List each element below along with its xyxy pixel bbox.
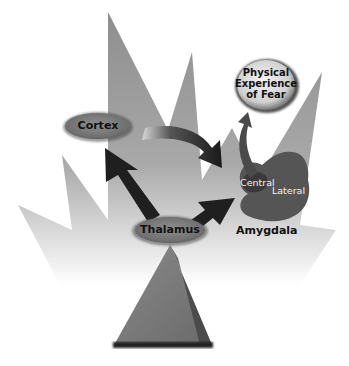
diagram-canvas (0, 0, 349, 366)
amygdala-central-label: Central (240, 177, 275, 188)
amygdala-label: Amygdala (236, 224, 296, 237)
fear-label-line-1: Physical (234, 67, 298, 78)
thalamus-label: Thalamus (140, 223, 200, 236)
fear-label-line-2: Experience (234, 78, 298, 89)
fear-label-line-3: of Fear (234, 89, 298, 100)
cortex-label: Cortex (77, 119, 119, 132)
amygdala-lateral-label: Lateral (272, 185, 305, 196)
fear-label: Physical Experience of Fear (234, 67, 298, 100)
